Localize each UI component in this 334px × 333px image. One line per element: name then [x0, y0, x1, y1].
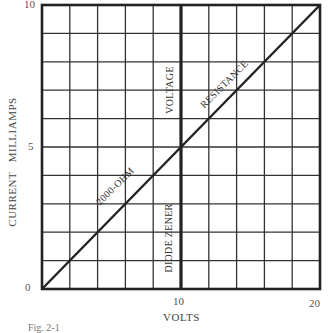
y-tick-0: 0	[25, 281, 31, 293]
x-axis-label: VOLTS	[163, 311, 200, 323]
x-tick-10: 10	[173, 295, 184, 307]
y-tick-10: 10	[24, 0, 35, 10]
y-axis-label: CURRENT MILLIAMPS	[6, 97, 18, 226]
annotation-diode-zener: DIODE ZENER	[163, 203, 174, 272]
figure-caption: Fig. 2-1	[28, 322, 60, 333]
annotation-voltage: VOLTAGE	[164, 66, 175, 114]
y-tick-5: 5	[28, 140, 34, 152]
x-tick-20: 20	[309, 297, 320, 309]
